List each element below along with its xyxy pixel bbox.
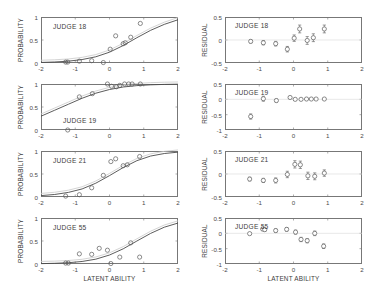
y-tick-label: 1: [35, 81, 38, 88]
y-tick-label: 1: [35, 14, 38, 21]
data-point-marker: [114, 157, 118, 161]
residual-errorbar: [248, 177, 252, 181]
y-axis-label: RESIDUAL: [201, 23, 208, 57]
x-tick-label: 1: [326, 132, 329, 139]
residual-errorbar: [322, 244, 326, 249]
residual-errorbar: [309, 97, 313, 101]
residual-errorbar: [288, 95, 292, 99]
x-tick-label: -2: [38, 266, 44, 273]
x-tick-label: -1: [256, 266, 262, 273]
y-tick-label: 0.5: [213, 215, 222, 222]
residual-errorbar: [304, 97, 308, 101]
residual-errorbar: [292, 35, 296, 41]
panel-title-left-3: JUDGE 21: [53, 157, 87, 164]
y-tick-label: 0.5: [29, 171, 38, 178]
x-tick-label: -2: [38, 199, 44, 206]
x-axis-label: LATENT ABILITY: [268, 275, 320, 282]
y-tick-label: 0.5: [29, 104, 38, 111]
x-tick-label: -1: [72, 65, 78, 72]
x-tick-label: 1: [142, 132, 145, 139]
x-tick-label: -1: [256, 65, 262, 72]
residual-errorbar: [299, 97, 303, 101]
residual-errorbar: [314, 97, 318, 101]
y-tick-label: 0.5: [213, 14, 222, 21]
panel-title-right-4: JUDGE 55: [235, 223, 269, 230]
x-tick-label: -1: [256, 199, 262, 206]
data-point-marker: [90, 186, 94, 190]
residual-errorbar: [261, 178, 265, 182]
y-axis-label: RESIDUAL: [201, 224, 208, 258]
y-tick-label: -0.5: [211, 245, 222, 252]
y-tick-label: 0.5: [29, 37, 38, 44]
panel-title-left-4: JUDGE 55: [53, 224, 87, 231]
x-tick-label: -1: [72, 199, 78, 206]
residual-errorbar: [305, 239, 309, 243]
x-tick-label: 2: [176, 266, 179, 273]
y-axis-label: PROBABILITY: [17, 152, 24, 196]
residual-errorbar: [261, 96, 265, 101]
y-axis-label: PROBABILITY: [17, 18, 24, 62]
x-tick-label: 0: [292, 266, 295, 273]
y-tick-label: 0: [219, 37, 222, 44]
panel-title-left-2: JUDGE 19: [63, 117, 97, 124]
x-tick-label: 2: [176, 199, 179, 206]
y-tick-label: 1: [35, 148, 38, 155]
y-tick-label: 0.5: [213, 81, 222, 88]
data-point-marker: [90, 252, 94, 256]
x-tick-label: 1: [142, 199, 145, 206]
residual-errorbar: [311, 34, 315, 42]
data-point-marker: [118, 255, 122, 259]
x-tick-label: -2: [222, 266, 228, 273]
data-point-marker: [101, 60, 105, 64]
y-tick-label: 0.5: [213, 148, 222, 155]
y-tick-label: -0.5: [211, 60, 222, 67]
plot-panel-right-4: JUDGE 55: [225, 218, 362, 264]
fitted-curve: [41, 84, 178, 116]
y-tick-label: 0.5: [29, 238, 38, 245]
y-axis-label: PROBABILITY: [17, 219, 24, 263]
plot-panel-left-3: JUDGE 21: [41, 151, 178, 197]
x-tick-label: 2: [360, 65, 363, 72]
x-tick-label: 1: [326, 65, 329, 72]
x-tick-label: 0: [108, 65, 111, 72]
y-tick-label: 0: [219, 171, 222, 178]
panel-title-left-1: JUDGE 18: [53, 23, 87, 30]
y-tick-label: -1: [216, 261, 222, 268]
x-tick-label: -2: [222, 199, 228, 206]
x-tick-label: -2: [222, 132, 228, 139]
x-tick-label: -2: [38, 65, 44, 72]
residual-errorbar: [293, 161, 297, 168]
plot-panel-right-3: JUDGE 21: [225, 151, 362, 197]
x-tick-label: 0: [108, 132, 111, 139]
x-tick-label: 2: [360, 199, 363, 206]
y-tick-label: -1: [216, 127, 222, 134]
x-tick-label: 0: [108, 266, 111, 273]
data-point-marker: [122, 82, 126, 86]
residual-errorbar: [305, 37, 309, 45]
data-point-marker: [109, 159, 113, 163]
residual-errorbar: [285, 171, 289, 177]
x-tick-label: -2: [38, 132, 44, 139]
x-tick-label: -1: [72, 266, 78, 273]
data-point-marker: [138, 255, 142, 259]
data-point-marker: [105, 248, 109, 252]
plot-panel-right-2: JUDGE 19: [225, 84, 362, 130]
residual-errorbar: [299, 237, 303, 241]
data-point-marker: [77, 193, 81, 197]
y-tick-label: 0: [219, 96, 222, 103]
x-tick-label: -2: [222, 65, 228, 72]
plot-panel-right-1: JUDGE 18: [225, 17, 362, 63]
y-tick-label: -0.5: [211, 111, 222, 118]
x-tick-label: 2: [176, 65, 179, 72]
residual-errorbar: [249, 114, 253, 119]
y-axis-label: RESIDUAL: [201, 90, 208, 124]
y-axis-label: PROBABILITY: [17, 85, 24, 129]
residual-errorbar: [274, 41, 278, 46]
residual-errorbar: [298, 161, 302, 168]
x-tick-label: 2: [360, 132, 363, 139]
x-tick-label: 1: [326, 199, 329, 206]
residual-errorbar: [274, 98, 278, 102]
residual-errorbar: [274, 178, 278, 183]
y-tick-label: -0.5: [211, 194, 222, 201]
residual-errorbar: [293, 97, 297, 101]
